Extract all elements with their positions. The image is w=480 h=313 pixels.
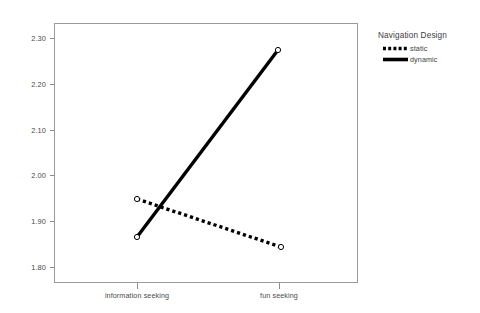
x-tick-label: fun seeking: [260, 291, 298, 300]
plot-frame: [55, 24, 358, 283]
static-data-point: [278, 244, 283, 249]
chart-canvas: 2.30 2.20 2.10 2.00 1.90 1.80: [0, 0, 480, 313]
legend-entry-static[interactable]: static: [383, 44, 428, 53]
y-tick-label: 2.10: [31, 126, 46, 135]
x-tick-label: information seeking: [105, 291, 169, 300]
y-tick-label: 1.90: [31, 217, 46, 226]
legend-title: Navigation Design: [378, 31, 447, 40]
x-tick-group: fun seeking: [260, 283, 298, 301]
y-tick-group: 1.80: [31, 263, 54, 272]
y-tick-group: 2.10: [31, 126, 54, 135]
legend-entry-dynamic[interactable]: dynamic: [383, 55, 438, 64]
y-tick-label: 2.20: [31, 80, 46, 89]
y-tick-group: 2.20: [31, 80, 54, 89]
dynamic-data-point: [275, 47, 280, 52]
y-tick-label: 2.30: [31, 34, 46, 43]
legend: Navigation Design static dynamic: [378, 31, 447, 64]
x-tick-group: information seeking: [105, 283, 169, 301]
y-tick-group: 2.30: [31, 34, 54, 43]
dynamic-data-point: [134, 234, 139, 239]
interaction-plot-figure: 2.30 2.20 2.10 2.00 1.90 1.80: [0, 0, 480, 313]
legend-entry-label: static: [410, 44, 428, 53]
x-axis: information seeking fun seeking: [105, 283, 298, 301]
static-data-point: [134, 196, 139, 201]
y-tick-group: 1.90: [31, 217, 54, 226]
y-tick-label: 2.00: [31, 171, 46, 180]
y-tick-group: 2.00: [31, 171, 54, 180]
y-axis: 2.30 2.20 2.10 2.00 1.90 1.80: [31, 34, 54, 272]
legend-entry-label: dynamic: [410, 55, 438, 64]
y-tick-label: 1.80: [31, 263, 46, 272]
